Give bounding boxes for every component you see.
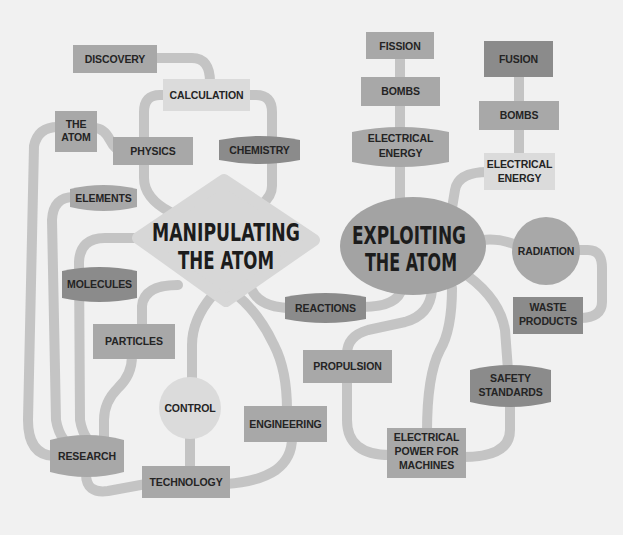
node-label-line-1: WASTE (530, 301, 567, 313)
concept-map: MANIPULATING THE ATOM EXPLOITING THE ATO… (0, 0, 623, 535)
node-the-atom: THE ATOM (55, 111, 97, 152)
connector-exploiting-radiation (482, 240, 516, 245)
node-label-line-2: ATOM (61, 131, 91, 143)
node-fusion-bombs: BOMBS (479, 101, 559, 130)
node-particles: PARTICLES (93, 324, 175, 359)
central-title-line-2: THE ATOM (178, 246, 274, 275)
node-label-line-2: ENERGY (379, 147, 423, 159)
node-fission-electrical-energy: ELECTRICAL ENERGY (352, 127, 449, 167)
node-control: CONTROL (159, 377, 221, 439)
node-label-line-2: ENERGY (498, 172, 542, 184)
node-label-line-1: ELECTRICAL (368, 132, 434, 144)
node-label-line-1: ELECTRICAL (487, 158, 553, 170)
node-label: FISSION (379, 40, 420, 52)
node-fission: FISSION (366, 32, 434, 59)
node-molecules: MOLECULES (62, 267, 137, 302)
node-label: ELEMENTS (75, 192, 131, 204)
node-label: DISCOVERY (85, 53, 146, 65)
node-label: CALCULATION (170, 89, 244, 101)
central-title-line-1: MANIPULATING (152, 218, 300, 247)
node-reactions: REACTIONS (285, 293, 366, 323)
node-chemistry: CHEMISTRY (219, 136, 300, 164)
node-label: PROPULSION (313, 360, 381, 372)
node-fission-bombs: BOMBS (361, 77, 440, 106)
node-label: MOLECULES (67, 278, 132, 290)
node-label: BOMBS (500, 109, 539, 121)
node-label: TECHNOLOGY (149, 476, 222, 488)
node-label-line-1: ELECTRICAL (394, 431, 460, 443)
node-propulsion: PROPULSION (303, 350, 392, 383)
node-label: ENGINEERING (249, 418, 321, 430)
node-label: PARTICLES (105, 335, 163, 347)
node-waste-products: WASTE PRODUCTS (513, 297, 583, 334)
node-label-line-3: MACHINES (399, 459, 454, 471)
node-label: PHYSICS (130, 145, 175, 157)
central-title-line-2: THE ATOM (365, 248, 457, 277)
node-label-line-1: THE (66, 118, 87, 130)
node-label-line-2: PRODUCTS (519, 315, 577, 327)
node-research: RESEARCH (50, 435, 124, 477)
node-label-line-2: POWER FOR (395, 445, 459, 457)
node-label: CHEMISTRY (229, 144, 290, 156)
node-label: REACTIONS (295, 302, 356, 314)
node-physics: PHYSICS (113, 137, 193, 165)
node-fusion: FUSION (484, 41, 553, 77)
node-discovery: DISCOVERY (73, 45, 157, 73)
node-calculation: CALCULATION (163, 79, 250, 111)
node-electrical-power-for-machines: ELECTRICAL POWER FOR MACHINES (387, 428, 466, 478)
node-safety-standards: SAFETY STANDARDS (470, 365, 551, 407)
node-label: RESEARCH (58, 450, 116, 462)
central-title-line-1: EXPLOITING (352, 221, 466, 250)
node-radiation: RADIATION (512, 217, 580, 285)
node-elements: ELEMENTS (70, 185, 137, 211)
node-engineering: ENGINEERING (244, 406, 327, 442)
node-label: FUSION (499, 53, 538, 65)
node-label: BOMBS (381, 85, 420, 97)
node-fusion-electrical-energy: ELECTRICAL ENERGY (484, 153, 555, 190)
node-technology: TECHNOLOGY (142, 466, 230, 498)
node-label-line-1: SAFETY (490, 372, 531, 384)
central-topic-exploiting-the-atom: EXPLOITING THE ATOM (340, 197, 486, 295)
node-label: CONTROL (164, 402, 216, 414)
node-label: RADIATION (518, 245, 575, 257)
node-label-line-2: STANDARDS (478, 386, 542, 398)
